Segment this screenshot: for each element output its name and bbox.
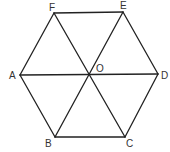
vertex-label-a: A: [9, 70, 16, 81]
edge-de: [123, 12, 158, 74]
hexagon-diagram: F E A O D B C: [0, 0, 170, 152]
vertex-label-e: E: [120, 0, 127, 11]
edge-ab: [20, 75, 55, 137]
edge-fa: [20, 13, 54, 75]
edge-cd: [125, 74, 158, 137]
vertex-label-o: O: [96, 63, 104, 74]
vertex-label-f: F: [49, 2, 55, 13]
vertex-label-c: C: [126, 138, 133, 149]
vertex-label-b: B: [45, 138, 52, 149]
vertex-label-d: D: [161, 70, 168, 81]
edge-ef: [54, 12, 123, 13]
